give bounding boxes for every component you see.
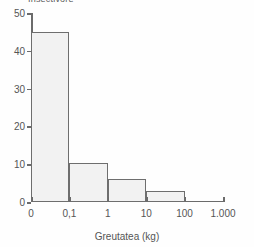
histogram-bar <box>108 179 146 202</box>
y-tick-label: 10 <box>14 159 25 170</box>
x-tick-label: 1.000 <box>210 208 235 219</box>
x-tick-label: 0 <box>28 208 34 219</box>
x-tick-mark <box>146 197 148 202</box>
x-tick-mark <box>69 197 71 202</box>
x-tick-mark <box>223 197 225 202</box>
histogram-bar <box>146 191 184 202</box>
y-tick-mark <box>27 202 31 204</box>
y-tick-label: 30 <box>14 83 25 94</box>
chart-title: Insectivore <box>28 0 74 4</box>
y-tick-label: 50 <box>14 8 25 19</box>
y-tick-label: 40 <box>14 45 25 56</box>
x-tick-label: 0,1 <box>62 208 76 219</box>
x-axis-title: Greutatea (kg) <box>31 231 223 242</box>
x-tick-label: 10 <box>141 208 152 219</box>
histogram-bar <box>69 163 107 202</box>
x-tick-label: 1 <box>105 208 111 219</box>
x-tick-mark <box>108 197 110 202</box>
y-tick-mark <box>27 13 31 15</box>
y-tick-label: 0 <box>19 197 25 208</box>
chart-page: Insectivore 0 10 20 30 40 50 0 0,1 1 10 … <box>0 0 254 247</box>
plot-area: 0 10 20 30 40 50 0 0,1 1 10 100 1.000 <box>31 13 223 202</box>
x-tick-label: 100 <box>176 208 193 219</box>
histogram-bar <box>31 32 69 202</box>
x-tick-mark <box>185 197 187 202</box>
x-tick-mark <box>31 197 33 202</box>
y-tick-label: 20 <box>14 121 25 132</box>
